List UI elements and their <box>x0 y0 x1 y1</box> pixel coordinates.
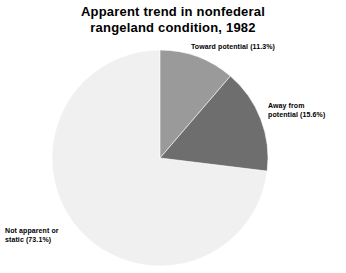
chart-page: Apparent trend in nonfederal rangeland c… <box>0 0 346 273</box>
pie-label-not-apparent-or-static: Not apparent or static (73.1%) <box>5 226 59 244</box>
pie-label-away-from-potential: Away from potential (15.6%) <box>268 101 325 119</box>
pie-label-toward-potential: Toward potential (11.3%) <box>191 42 275 51</box>
